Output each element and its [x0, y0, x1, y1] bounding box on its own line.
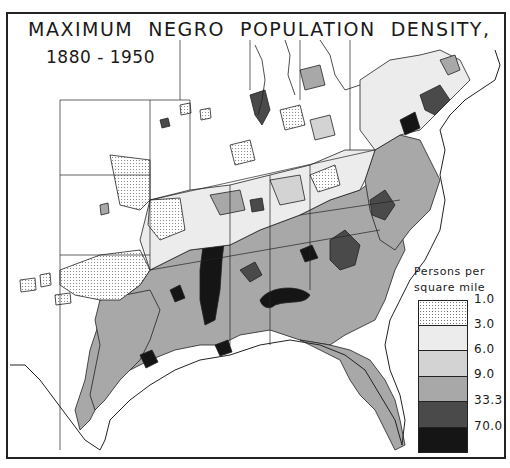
legend-label-4: 9.0	[474, 367, 495, 381]
legend-label-6: 70.0	[474, 419, 503, 433]
legend-swatch-3	[418, 351, 468, 377]
legend-swatch-5	[418, 402, 468, 428]
legend-label-2: 3.0	[474, 317, 495, 331]
legend: 1.0 3.0 6.0 9.0 33.3 70.0	[418, 300, 508, 460]
map-subtitle: 1880 - 1950	[46, 47, 155, 67]
legend-swatch-4	[418, 377, 468, 403]
region-florida	[300, 340, 405, 450]
map-title: MAXIMUM NEGRO POPULATION DENSITY,	[28, 18, 491, 40]
legend-swatch-2	[418, 326, 468, 352]
legend-swatch-6	[418, 428, 468, 454]
legend-swatches	[418, 300, 468, 453]
legend-swatch-1	[418, 300, 468, 326]
legend-label-3: 6.0	[474, 342, 495, 356]
legend-label-1: 1.0	[474, 292, 495, 306]
legend-title-line1: Persons per	[414, 264, 504, 280]
legend-label-5: 33.3	[474, 393, 503, 407]
